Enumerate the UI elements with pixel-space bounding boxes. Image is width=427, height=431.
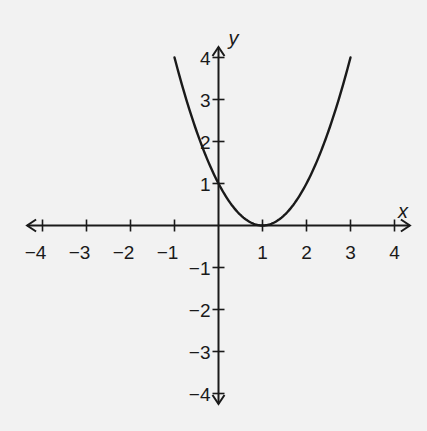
x-tick-label: 2 bbox=[301, 242, 312, 263]
x-tick-label: −3 bbox=[69, 242, 91, 263]
parabola-curve bbox=[175, 58, 351, 226]
x-tick-label: 3 bbox=[345, 242, 356, 263]
graph-figure: −4−3−2−11234−4−3−2−11234xy bbox=[0, 0, 427, 431]
x-tick-label: 1 bbox=[257, 242, 268, 263]
x-tick-label: 4 bbox=[389, 242, 400, 263]
coordinate-plane: −4−3−2−11234−4−3−2−11234xy bbox=[0, 0, 427, 431]
y-tick-label: −1 bbox=[189, 258, 211, 279]
y-tick-label: 4 bbox=[200, 48, 211, 69]
y-tick-label: 1 bbox=[200, 174, 211, 195]
y-tick-label: −4 bbox=[189, 384, 211, 405]
y-tick-label: −2 bbox=[189, 300, 211, 321]
x-axis-label: x bbox=[397, 200, 409, 222]
y-tick-label: −3 bbox=[189, 342, 211, 363]
x-tick-label: −2 bbox=[113, 242, 135, 263]
x-tick-label: −1 bbox=[157, 242, 179, 263]
y-axis-label: y bbox=[227, 27, 240, 49]
x-tick-label: −4 bbox=[25, 242, 47, 263]
y-tick-label: 3 bbox=[200, 90, 211, 111]
